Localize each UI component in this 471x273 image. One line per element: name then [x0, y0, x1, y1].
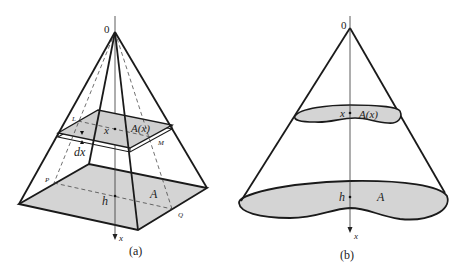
label-axis-a: x	[118, 233, 123, 243]
label-ax-b: A(x)	[358, 108, 378, 121]
label-h-a: h	[102, 194, 108, 208]
point-h-b	[349, 196, 352, 199]
caption-b: (b)	[340, 248, 354, 262]
label-a-b: A	[376, 190, 385, 204]
figure-canvas: 0 x A(x) dx L M P Q A h x (a) 0 x A(x) h…	[0, 0, 471, 273]
label-q: Q	[178, 211, 183, 219]
slice-blob	[295, 105, 401, 123]
label-h-b: h	[339, 190, 345, 204]
point-h-a	[114, 195, 117, 198]
label-x-b: x	[339, 107, 345, 119]
point-x-a	[114, 128, 117, 131]
x-axis-arrow-b	[348, 227, 353, 233]
label-origin-b: 0	[341, 19, 347, 31]
label-origin-a: 0	[104, 23, 110, 35]
label-dx: dx	[74, 145, 86, 159]
point-x-b	[349, 112, 352, 115]
panel-a-pyramid: 0 x A(x) dx L M P Q A h x (a)	[19, 16, 207, 258]
edge-right	[115, 32, 207, 188]
pyramid-base	[19, 164, 207, 230]
label-p: P	[44, 176, 50, 184]
panel-b-cone: 0 x A(x) h A x (b)	[239, 16, 448, 262]
label-axis-b: x	[353, 231, 358, 241]
label-a-base: A	[149, 187, 158, 201]
apex-to-p-dashed	[54, 32, 115, 183]
label-ax-a: A(x)	[130, 122, 150, 135]
label-m: M	[157, 139, 165, 147]
label-l: L	[71, 115, 76, 123]
label-x-a: x	[103, 124, 109, 136]
caption-a: (a)	[129, 244, 142, 258]
x-axis-arrow-a	[113, 234, 118, 240]
